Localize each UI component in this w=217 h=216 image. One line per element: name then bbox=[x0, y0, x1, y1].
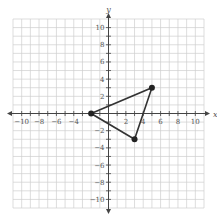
x-axis-arrow-right-icon bbox=[205, 111, 210, 116]
x-tick-label: −4 bbox=[69, 118, 80, 126]
axes bbox=[7, 13, 210, 214]
vertex-point bbox=[88, 111, 94, 117]
y-tick-label: −6 bbox=[94, 162, 105, 170]
y-tick-label: 2 bbox=[100, 93, 104, 101]
y-tick-label: 6 bbox=[100, 58, 105, 66]
vertex-point bbox=[132, 136, 138, 142]
y-tick-label: −8 bbox=[94, 179, 104, 187]
x-tick-label: −6 bbox=[51, 118, 62, 126]
x-tick-label: 6 bbox=[158, 118, 163, 126]
coordinate-plane: −10−8−6−4246810108642−2−4−6−8−10xy bbox=[0, 0, 217, 216]
x-axis-label: x bbox=[213, 110, 217, 119]
y-tick-label: −4 bbox=[94, 144, 105, 152]
y-tick-label: 10 bbox=[96, 24, 105, 32]
y-tick-label: 4 bbox=[100, 76, 105, 84]
x-tick-label: 8 bbox=[176, 118, 180, 126]
x-tick-label: −10 bbox=[14, 118, 29, 126]
x-tick-label: −8 bbox=[34, 118, 44, 126]
y-tick-label: 8 bbox=[100, 41, 104, 49]
y-tick-label: −10 bbox=[90, 196, 105, 204]
y-axis-label: y bbox=[105, 5, 111, 14]
x-tick-label: 2 bbox=[124, 118, 128, 126]
y-tick-label: −2 bbox=[94, 127, 104, 135]
vertex-point bbox=[149, 85, 155, 91]
y-axis-arrow-down-icon bbox=[106, 209, 111, 214]
x-axis-arrow-left-icon bbox=[7, 111, 12, 116]
x-tick-label: 10 bbox=[191, 118, 200, 126]
